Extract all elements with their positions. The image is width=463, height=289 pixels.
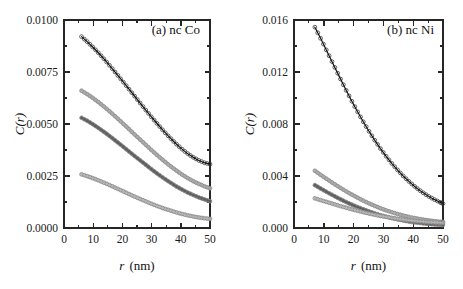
x-tick-label: 30 bbox=[146, 233, 158, 245]
x-tick-label: 30 bbox=[378, 233, 390, 245]
y-tick-label: 0.004 bbox=[262, 170, 288, 182]
x-tick-label: 20 bbox=[348, 233, 360, 245]
x-tick-label: 50 bbox=[204, 233, 216, 245]
panel-b-svg: 010203040500.0000.0040.0080.0120.016(b) … bbox=[231, 0, 463, 289]
data-series-fit-line bbox=[315, 27, 443, 203]
panel-label: (a) nc Co bbox=[152, 22, 200, 37]
data-series-band bbox=[82, 91, 210, 189]
x-tick-label: 50 bbox=[437, 233, 449, 245]
x-tick-label: 10 bbox=[87, 233, 99, 245]
chart-panel-b: 010203040500.0000.0040.0080.0120.016(b) … bbox=[231, 0, 463, 289]
panel-b-labels: 010203040500.0000.0040.0080.0120.016(b) … bbox=[242, 14, 449, 273]
y-tick-label: 0.0075 bbox=[26, 66, 58, 78]
x-tick-label: 40 bbox=[407, 233, 419, 245]
panel-a-svg: 010203040500.00000.00250.00500.00750.010… bbox=[0, 0, 232, 289]
panel-b-data bbox=[313, 25, 445, 227]
panel-a-data bbox=[80, 35, 212, 221]
panel-label: (b) nc Ni bbox=[387, 22, 434, 37]
x-tick-label: 10 bbox=[318, 233, 330, 245]
x-tick-label: 20 bbox=[117, 233, 129, 245]
y-tick-label: 0.016 bbox=[262, 14, 288, 26]
chart-panel-a: 010203040500.00000.00250.00500.00750.010… bbox=[0, 0, 232, 289]
x-tick-label: 0 bbox=[291, 233, 297, 245]
y-tick-label: 0.0100 bbox=[26, 14, 58, 26]
y-tick-label: 0.0025 bbox=[26, 170, 58, 182]
panel-a-labels: 010203040500.00000.00250.00500.00750.010… bbox=[12, 14, 216, 273]
x-tick-label: 40 bbox=[175, 233, 187, 245]
y-tick-label: 0.000 bbox=[262, 222, 288, 234]
y-axis-title: C(r) bbox=[242, 113, 257, 135]
y-tick-label: 0.0050 bbox=[26, 118, 58, 130]
y-axis-title: C(r) bbox=[12, 113, 27, 135]
y-tick-label: 0.012 bbox=[262, 66, 288, 78]
y-tick-label: 0.008 bbox=[262, 118, 288, 130]
y-tick-label: 0.0000 bbox=[26, 222, 58, 234]
x-axis-title: r(nm) bbox=[351, 258, 386, 273]
data-series-fit-line bbox=[82, 118, 210, 201]
x-axis-title: r(nm) bbox=[119, 258, 154, 273]
figure-container: 010203040500.00000.00250.00500.00750.010… bbox=[0, 0, 463, 289]
x-tick-label: 0 bbox=[61, 233, 67, 245]
